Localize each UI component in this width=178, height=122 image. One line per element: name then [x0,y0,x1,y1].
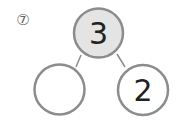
connector-right [117,54,125,67]
number-bond-diagram: ⑦ 3 2 [0,0,178,122]
problem-number: ⑦ [16,11,29,29]
whole-circle: 3 [74,9,123,58]
part-left-circle[interactable] [35,65,85,115]
part-right-circle: 2 [118,65,168,115]
whole-value: 3 [89,16,108,51]
part-right-value: 2 [133,73,152,108]
connector-left [76,55,81,67]
